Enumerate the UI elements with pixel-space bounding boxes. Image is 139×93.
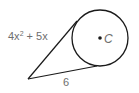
tangent-diagram: C 4x2 + 5x 6 xyxy=(0,0,139,93)
lower-tangent-label: 6 xyxy=(63,76,69,88)
center-point xyxy=(98,36,102,40)
center-label: C xyxy=(104,32,113,46)
upper-tangent-label: 4x2 + 5x xyxy=(8,30,48,42)
